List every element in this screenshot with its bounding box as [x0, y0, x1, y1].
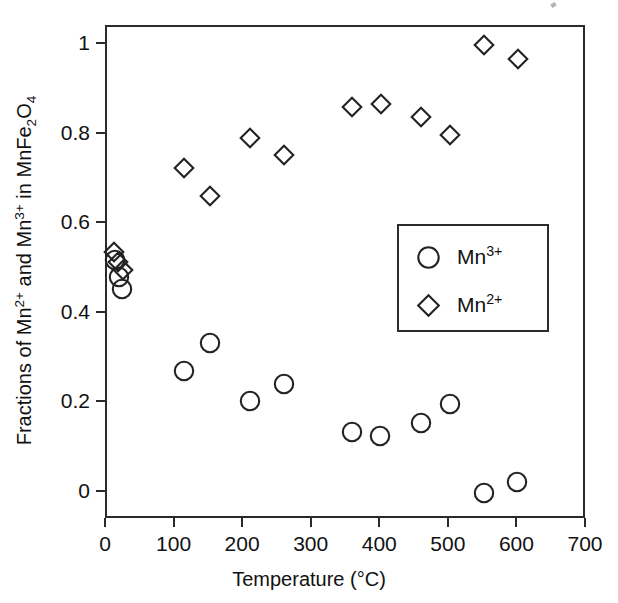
data-point-mn3plus [411, 413, 432, 434]
legend-item-mn3plus[interactable]: Mn3+ [399, 232, 547, 282]
y-axis-tick-label: 1 [10, 31, 90, 55]
x-axis-tick [173, 518, 175, 527]
y-axis-tick-label: 0.2 [10, 389, 90, 413]
data-point-mn3plus [239, 390, 260, 411]
data-point-mn2plus [173, 157, 194, 178]
data-point-mn3plus [173, 361, 194, 382]
data-point-mn3plus [439, 393, 460, 414]
x-axis-tick-label: 400 [362, 532, 397, 556]
y-axis-label-sub-2: 4 [25, 95, 40, 103]
y-axis-tick [96, 42, 105, 44]
x-axis-tick-label: 100 [156, 532, 191, 556]
data-point-mn3plus [105, 250, 126, 271]
legend-label-base: Mn [457, 245, 486, 268]
legend-item-label: Mn3+ [457, 245, 502, 269]
data-point-mn3plus [109, 267, 130, 288]
y-axis-tick [96, 311, 105, 313]
data-point-mn2plus [113, 260, 134, 281]
data-point-mn2plus [273, 144, 294, 165]
x-axis-tick-label: 0 [99, 532, 111, 556]
y-axis-tick [96, 400, 105, 402]
data-point-mn2plus [199, 186, 220, 207]
data-point-mn3plus [369, 425, 390, 446]
y-axis-tick [96, 490, 105, 492]
data-point-mn2plus [474, 35, 495, 56]
x-axis-tick-label: 200 [225, 532, 260, 556]
y-axis-label-container: Fractions of Mn2+ and Mn3+ in MnFe2O4 [0, 0, 50, 540]
data-point-mn2plus [439, 125, 460, 146]
data-point-mn2plus [103, 241, 124, 262]
data-point-mn3plus [199, 333, 220, 354]
data-point-mn3plus [273, 374, 294, 395]
x-axis-tick-label: 700 [567, 532, 602, 556]
figure-scatter-plot: Fractions of Mn2+ and Mn3+ in MnFe2O4 01… [0, 0, 618, 603]
y-axis-tick [96, 132, 105, 134]
legend-label-superscript: 3+ [486, 243, 502, 259]
y-axis-tick-label: 0.8 [10, 121, 90, 145]
x-axis-tick [104, 518, 106, 527]
y-axis-label-part-1: Fractions of Mn [14, 307, 36, 445]
data-point-mn2plus [508, 48, 529, 69]
data-point-mn2plus [342, 96, 363, 117]
data-point-mn2plus [411, 106, 432, 127]
scan-artifact [550, 2, 556, 8]
x-axis-tick [447, 518, 449, 527]
y-axis-tick-label: 0 [10, 479, 90, 503]
legend-box: Mn3+Mn2+ [397, 224, 549, 332]
x-axis-tick-label: 500 [430, 532, 465, 556]
legend-item-mn2plus[interactable]: Mn2+ [399, 280, 547, 330]
y-axis-tick [96, 221, 105, 223]
x-axis-tick-label: 300 [293, 532, 328, 556]
y-axis-label-part-4: O [14, 103, 36, 119]
x-axis-tick [241, 518, 243, 527]
data-point-mn2plus [371, 93, 392, 114]
legend-item-label: Mn2+ [457, 293, 502, 317]
legend-label-base: Mn [457, 293, 486, 316]
data-point-mn2plus [239, 128, 260, 149]
data-point-mn3plus [474, 483, 495, 504]
y-axis-tick-label: 0.4 [10, 300, 90, 324]
legend-label-superscript: 2+ [486, 291, 502, 307]
x-axis-tick [310, 518, 312, 527]
diamond-marker-icon [399, 294, 457, 317]
x-axis-tick [584, 518, 586, 527]
circle-marker-icon [399, 246, 457, 269]
data-point-mn3plus [342, 422, 363, 443]
data-point-mn2plus [107, 252, 128, 273]
data-point-mn3plus [112, 279, 133, 300]
x-axis-tick [515, 518, 517, 527]
data-point-mn3plus [507, 472, 528, 493]
y-axis-tick-label: 0.6 [10, 210, 90, 234]
x-axis-tick-label: 600 [499, 532, 534, 556]
x-axis-label: Temperature (°C) [0, 568, 618, 591]
x-axis-tick [378, 518, 380, 527]
